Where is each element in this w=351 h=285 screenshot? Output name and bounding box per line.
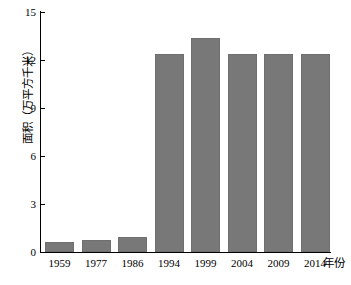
y-tick-label: 9 <box>12 103 36 114</box>
y-axis-line <box>40 11 41 253</box>
bar-2009 <box>264 54 293 252</box>
bar-1994 <box>155 54 184 252</box>
y-tick-mark <box>40 204 45 205</box>
y-tick-mark <box>40 108 45 109</box>
x-tick-label-1994: 1994 <box>149 256 189 270</box>
bar-1977 <box>82 240 111 252</box>
bar-chart: 面积（万平方千米） 0 3 6 9 12 15 1959 1977 1986 1… <box>0 0 351 285</box>
x-tick-label-1977: 1977 <box>76 256 116 270</box>
y-tick-label: 15 <box>12 7 36 18</box>
x-tick-label-1959: 1959 <box>40 256 80 270</box>
bar-1959 <box>45 242 74 252</box>
x-tick-label-2004: 2004 <box>222 256 262 270</box>
y-tick-mark <box>40 156 45 157</box>
y-axis-title: 面积（万平方千米） <box>19 19 37 169</box>
x-tick-label-1999: 1999 <box>186 256 226 270</box>
y-tick-label: 3 <box>12 199 36 210</box>
y-tick-label: 6 <box>12 151 36 162</box>
bar-2014 <box>301 54 330 252</box>
x-axis-title: 年份 <box>323 256 345 270</box>
bar-1999 <box>191 38 220 252</box>
x-tick-label-2009: 2009 <box>259 256 299 270</box>
y-tick-label: 12 <box>12 55 36 66</box>
x-axis-line <box>40 252 331 253</box>
y-tick-mark <box>40 60 45 61</box>
x-tick-label-1986: 1986 <box>113 256 153 270</box>
y-tick-mark <box>40 12 45 13</box>
bar-2004 <box>228 54 257 252</box>
y-tick-label: 0 <box>12 247 36 258</box>
bar-1986 <box>118 237 147 252</box>
